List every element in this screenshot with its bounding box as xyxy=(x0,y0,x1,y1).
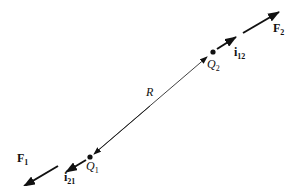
force-F1 xyxy=(24,166,58,186)
label-Q2-sub: 2 xyxy=(216,64,220,73)
charge-Q2 xyxy=(210,49,215,54)
label-i21: i21 xyxy=(64,171,75,186)
label-i12: i12 xyxy=(234,46,245,61)
label-i21-sub: 21 xyxy=(67,177,75,186)
label-F1: F1 xyxy=(17,152,28,167)
label-Q2: Q2 xyxy=(207,58,220,73)
label-Q1: Q1 xyxy=(86,160,99,175)
label-Q2-base: Q xyxy=(207,57,216,71)
label-Q1-sub: 1 xyxy=(95,166,99,175)
label-R: R xyxy=(146,86,153,98)
label-i12-sub: 12 xyxy=(237,52,245,61)
label-Q1-base: Q xyxy=(86,159,95,173)
label-F2-sub: 2 xyxy=(280,28,284,37)
label-F1-sub: 1 xyxy=(24,158,28,167)
label-F2: F2 xyxy=(273,22,284,37)
